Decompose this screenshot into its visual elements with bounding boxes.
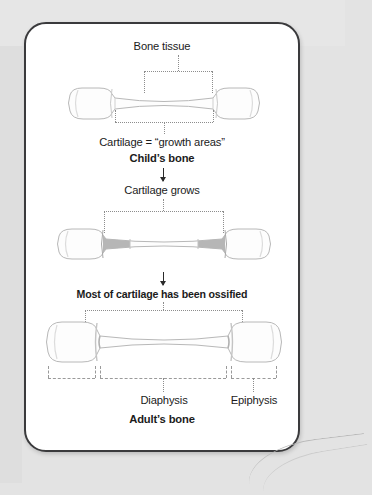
bracket-epiphysis-right-end: [276, 366, 277, 378]
bracket-diaphysis-start: [100, 366, 101, 378]
leader-cartilage: [164, 122, 165, 134]
flow-arrow-1: [163, 168, 164, 181]
bracket-epiphysis-left-bar: [48, 378, 95, 379]
leader-ossified: [163, 302, 164, 310]
label-adults-bone: Adult’s bone: [26, 413, 298, 426]
bone-illustration-child: [66, 82, 262, 124]
bone-illustration-adult: [44, 316, 284, 368]
bottom-label-row: Diaphysis Epiphysis Adult’s bone: [26, 394, 298, 426]
diagram-card: Bone tissue Cartilage = “growth areas” C…: [24, 22, 300, 452]
leader-bone-tissue: [178, 55, 179, 71]
bracket-cartilage-left: [115, 110, 116, 122]
label-cartilage-grows: Cartilage grows: [26, 184, 298, 197]
bracket-ossified-top: [85, 310, 242, 311]
bracket-grows-top: [104, 211, 223, 212]
label-ossified: Most of cartilage has been ossified: [26, 288, 298, 301]
label-bone-tissue: Bone tissue: [26, 40, 298, 53]
bracket-cartilage-right: [213, 110, 214, 122]
bone-illustration-growing: [56, 224, 272, 264]
bracket-diaphysis-end: [226, 366, 227, 378]
leader-epiphysis: [253, 378, 254, 392]
background-band-left: [0, 46, 22, 483]
bracket-epiphysis-right-start: [231, 366, 232, 378]
bracket-epiphysis-left-end: [95, 366, 96, 378]
leader-diaphysis: [163, 378, 164, 392]
bracket-epiphysis-left-start: [48, 366, 49, 378]
label-childs-bone: Child’s bone: [26, 152, 298, 165]
bracket-bone-tissue-top: [144, 71, 212, 72]
leader-cartilage-grows: [163, 199, 164, 211]
label-cartilage-growth-areas: Cartilage = “growth areas”: [26, 136, 298, 149]
flow-arrow-2: [163, 272, 164, 285]
label-diaphysis: Diaphysis: [126, 394, 202, 407]
label-epiphysis: Epiphysis: [216, 394, 292, 407]
